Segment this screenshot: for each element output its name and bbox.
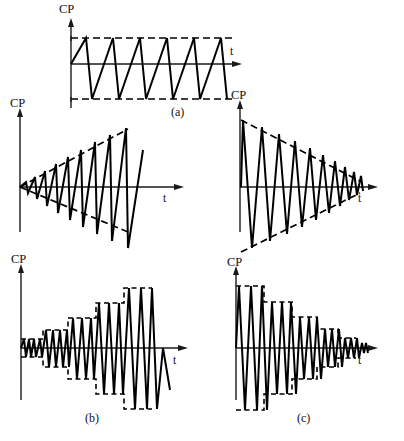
- panel-b-group: [18, 264, 188, 409]
- panel-a-group: [68, 18, 242, 108]
- panel-b-caption: (b): [85, 412, 99, 424]
- panel-a-waveform: [71, 38, 227, 99]
- waveform-figure: CP t (a) CP t CP t CP t (b) CP t (c): [0, 0, 404, 441]
- panel-bu-x-arrow-icon: [174, 184, 184, 190]
- panel-a-x-axis-label: t: [230, 46, 233, 58]
- panel-c-y-axis-label: CP: [227, 256, 242, 269]
- panel-bu-y-axis-label: CP: [10, 97, 25, 110]
- panel-b-x-arrow-icon: [178, 345, 188, 351]
- panel-c-caption: (c): [297, 412, 310, 424]
- panel-b-upper-envelope: [21, 288, 152, 339]
- panel-cu-waveform: [241, 120, 363, 248]
- panel-a-y-axis-label: CP: [59, 3, 74, 16]
- panel-cu-x-arrow-icon: [368, 184, 378, 190]
- panel-bu-x-axis-label: t: [163, 193, 166, 205]
- panel-b-y-axis-label: CP: [11, 253, 26, 266]
- panel-cu-y-axis-label: CP: [231, 89, 246, 102]
- panel-c-x-arrow-icon: [368, 345, 378, 351]
- panel-a-caption: (a): [171, 106, 184, 118]
- panel-a-x-arrow-icon: [232, 61, 242, 67]
- panel-b-upper-group: [17, 108, 184, 248]
- figure-canvas: [0, 0, 404, 441]
- panel-cu-x-axis-label: t: [358, 193, 361, 205]
- panel-c-upper-group: [237, 100, 378, 252]
- panel-c-x-axis-label: t: [358, 355, 361, 367]
- panel-b-x-axis-label: t: [173, 355, 176, 367]
- panel-c-group: [233, 266, 378, 410]
- panel-a-y-arrow-icon: [68, 18, 74, 27]
